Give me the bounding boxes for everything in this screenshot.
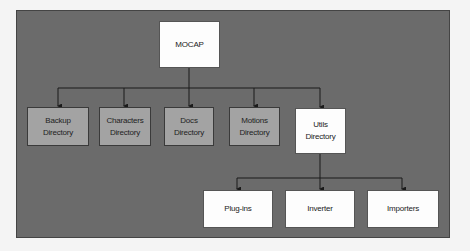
node-docs-directory: DocsDirectory [164,107,214,146]
node-mocap: MOCAP [159,21,220,68]
node-label: MOCAP [175,39,203,51]
node-label: UtilsDirectory [305,119,335,143]
node-motions-directory: MotionsDirectory [229,107,280,146]
node-label: MotionsDirectory [239,115,269,139]
node-label: Importers [387,203,419,215]
node-characters-directory: CharactersDirectory [99,107,151,146]
node-importers: Importers [367,190,439,228]
node-label: DocsDirectory [174,115,204,139]
node-label: Inverter [307,203,333,215]
node-label: BackupDirectory [43,115,73,139]
node-label: CharactersDirectory [106,115,143,139]
node-plug-ins: Plug-ins [203,190,273,228]
node-backup-directory: BackupDirectory [27,107,89,146]
node-label: Plug-ins [224,203,251,215]
node-utils-directory: UtilsDirectory [295,108,346,154]
node-inverter: Inverter [285,190,355,228]
